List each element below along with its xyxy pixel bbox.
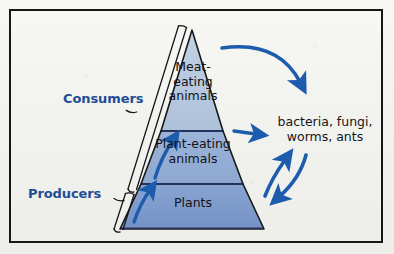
bottom-to-decomposers-arrow xyxy=(265,160,285,196)
producers-brace-cap-top xyxy=(126,193,135,195)
consumers-brace-pointer xyxy=(126,110,136,112)
producers-brace-cap-bottom xyxy=(114,229,120,232)
energy-pyramid-figure: Consumers Producers Decomposers bacteria… xyxy=(0,0,394,254)
top-to-decomposers-arrow xyxy=(222,47,300,82)
consumers-brace-cap-top xyxy=(179,26,187,28)
tier-label-bottom: Plants xyxy=(128,196,258,211)
producers-brace-pointer xyxy=(114,199,124,201)
tier-label-middle: Plant-eating animals xyxy=(128,137,258,166)
tier-label-top: Meat- eating animals xyxy=(158,60,228,104)
decomposers-organisms: bacteria, fungi, worms, ants xyxy=(262,114,388,144)
consumers-label: Consumers xyxy=(63,91,143,106)
producers-label: Producers xyxy=(28,186,101,201)
middle-to-decomposers-arrow xyxy=(234,131,256,134)
consumers-brace-cap-bottom xyxy=(128,189,134,192)
